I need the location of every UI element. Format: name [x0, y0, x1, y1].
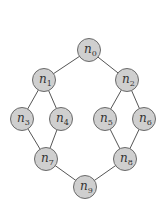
node-n9: n9	[74, 176, 97, 199]
nodes-layer: n0n1n2n3n4n5n6n7n8n9	[11, 39, 156, 199]
node-n1: n1	[33, 69, 56, 92]
node-n4: n4	[50, 108, 73, 131]
node-n8: n8	[114, 148, 137, 171]
node-n7: n7	[35, 148, 58, 171]
node-n5: n5	[94, 108, 117, 131]
node-n0: n0	[78, 39, 101, 62]
node-n6: n6	[133, 108, 156, 131]
graph-diagram: n0n1n2n3n4n5n6n7n8n9	[0, 0, 166, 217]
node-n2: n2	[116, 69, 139, 92]
node-n3: n3	[11, 108, 34, 131]
